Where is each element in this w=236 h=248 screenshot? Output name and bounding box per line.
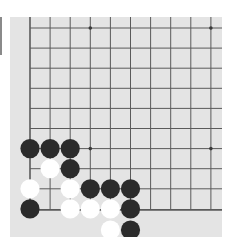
- white-stone[interactable]: [61, 199, 80, 218]
- star-point: [209, 26, 213, 30]
- white-stone[interactable]: [41, 159, 60, 178]
- black-stone[interactable]: [121, 199, 140, 218]
- white-stone[interactable]: [81, 199, 100, 218]
- white-stone[interactable]: [61, 179, 80, 198]
- star-point: [89, 147, 93, 151]
- black-stone[interactable]: [20, 139, 39, 158]
- board-grid[interactable]: [10, 17, 222, 237]
- star-point: [89, 26, 93, 30]
- star-point: [209, 147, 213, 151]
- go-board[interactable]: [10, 17, 222, 237]
- black-stone[interactable]: [41, 139, 60, 158]
- black-stone[interactable]: [101, 179, 120, 198]
- white-stone[interactable]: [101, 199, 120, 218]
- black-stone[interactable]: [20, 199, 39, 218]
- black-stone[interactable]: [121, 179, 140, 198]
- white-stone[interactable]: [101, 220, 120, 237]
- black-stone[interactable]: [81, 179, 100, 198]
- side-bar: [0, 17, 2, 55]
- white-stone[interactable]: [20, 179, 39, 198]
- black-stone[interactable]: [121, 220, 140, 237]
- black-stone[interactable]: [61, 159, 80, 178]
- black-stone[interactable]: [61, 139, 80, 158]
